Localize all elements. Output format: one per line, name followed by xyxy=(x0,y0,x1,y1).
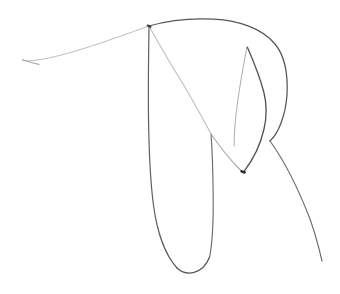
v-vertex-dot xyxy=(242,171,245,172)
canvas-background xyxy=(0,0,340,294)
sketch-canvas xyxy=(0,0,340,294)
apex-junction-blot xyxy=(148,26,151,27)
line-drawing-svg xyxy=(0,0,340,294)
